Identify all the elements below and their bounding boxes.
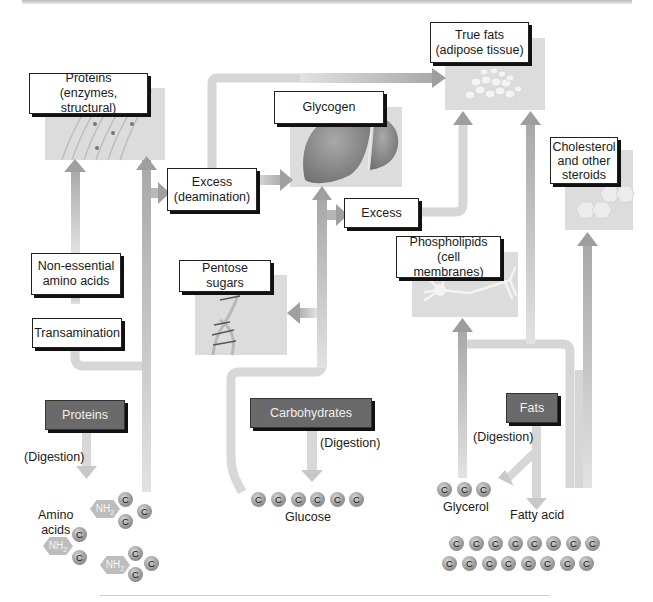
carbon-atom: C bbox=[137, 504, 152, 519]
non-essential-line1: Non-essential bbox=[38, 259, 114, 274]
non-essential-line2: amino acids bbox=[43, 274, 110, 289]
carbon-atom: C bbox=[521, 556, 536, 571]
carbon-atom: C bbox=[488, 536, 503, 551]
fats-digestion-label: (Digestion) bbox=[473, 430, 533, 445]
carbohydrates-source-box: Carbohydrates bbox=[250, 398, 372, 428]
amino-acids-line1: Amino bbox=[38, 508, 73, 523]
carbon-atom: C bbox=[585, 536, 600, 551]
fatty-acid-chain: C C C C C C C C C C C C C C C C bbox=[449, 536, 639, 576]
glucose-chain: C C C C C C bbox=[251, 492, 371, 508]
carbon-atom: C bbox=[349, 492, 364, 507]
carbon-atom: C bbox=[579, 556, 594, 571]
carbon-atom: C bbox=[501, 556, 516, 571]
cholesterol-line2: and other bbox=[558, 154, 611, 168]
fats-source-label: Fats bbox=[520, 401, 544, 415]
carbon-atom: C bbox=[508, 536, 523, 551]
glucose-label: Glucose bbox=[285, 510, 331, 525]
arrow-excess-to-true-fats bbox=[418, 111, 473, 212]
carbon-atom: C bbox=[72, 550, 87, 565]
true-fats-line1: True fats bbox=[455, 28, 504, 43]
carbon-atom: C bbox=[469, 536, 484, 551]
glycerol-label: Glycerol bbox=[443, 500, 489, 515]
carbon-atom: C bbox=[437, 482, 452, 497]
phospholipids-line1: Phospholipids bbox=[410, 235, 488, 250]
amino-acids-label: Amino acids bbox=[38, 508, 73, 538]
pipe-fatty-acid-to-true-fats bbox=[520, 111, 541, 344]
true-fats-box: True fats (adipose tissue) bbox=[430, 22, 529, 63]
carbon-atom: C bbox=[457, 482, 472, 497]
carbon-atom: C bbox=[72, 527, 87, 542]
amino-acids-line2: acids bbox=[38, 523, 73, 538]
carbon-atom: C bbox=[251, 492, 266, 507]
carbon-atom: C bbox=[291, 492, 306, 507]
carbon-atom: C bbox=[442, 556, 457, 571]
transamination-box: Transamination bbox=[32, 318, 122, 348]
carbon-atom: C bbox=[482, 556, 497, 571]
true-fats-line2: (adipose tissue) bbox=[435, 43, 523, 58]
carbon-atom: C bbox=[527, 536, 542, 551]
excess-deamination-line1: Excess bbox=[192, 175, 232, 190]
carbon-atom: C bbox=[144, 556, 159, 571]
carbon-atom: C bbox=[118, 492, 133, 507]
proteins-structural-box: Proteins (enzymes, structural) bbox=[29, 73, 148, 114]
carbon-atom: C bbox=[449, 536, 464, 551]
excess-deamination-line2: (deamination) bbox=[174, 190, 250, 205]
glycogen-box: Glycogen bbox=[274, 91, 384, 124]
phospholipids-line2: (cell membranes) bbox=[401, 250, 496, 280]
carbohydrates-source-label: Carbohydrates bbox=[270, 406, 352, 420]
carbon-atom: C bbox=[128, 567, 143, 582]
cholesterol-line1: Cholesterol bbox=[552, 140, 615, 154]
carbon-atom: C bbox=[310, 492, 325, 507]
carbon-atom: C bbox=[560, 556, 575, 571]
glycogen-label: Glycogen bbox=[303, 100, 356, 115]
proteins-structural-line1: Proteins bbox=[66, 71, 112, 86]
proteins-digestion-label: (Digestion) bbox=[24, 450, 84, 465]
excess-deamination-box: Excess (deamination) bbox=[167, 168, 257, 211]
proteins-structural-line2: (enzymes, structural) bbox=[34, 86, 143, 116]
carbohydrates-digestion-label: (Digestion) bbox=[320, 436, 380, 451]
bottom-divider bbox=[100, 595, 550, 596]
cholesterol-box: Cholesterol and other steroids bbox=[550, 137, 618, 184]
transamination-label: Transamination bbox=[34, 326, 120, 341]
proteins-source-label: Proteins bbox=[62, 408, 108, 422]
carbon-atom: C bbox=[128, 546, 143, 561]
carbon-atom: C bbox=[118, 514, 133, 529]
excess-box: Excess bbox=[344, 198, 419, 228]
glycerol-chain: C C C bbox=[437, 482, 497, 498]
arrow-nonessential-up bbox=[64, 159, 86, 253]
carbon-atom: C bbox=[271, 492, 286, 507]
carbon-atom: C bbox=[462, 556, 477, 571]
carbon-atom: C bbox=[476, 482, 491, 497]
fats-source-box: Fats bbox=[506, 393, 558, 423]
carbon-atom: C bbox=[330, 492, 345, 507]
phospholipids-box: Phospholipids (cell membranes) bbox=[396, 236, 501, 278]
pentose-sugars-box: Pentose sugars bbox=[179, 260, 271, 292]
pipe-fatty-acid-secondary bbox=[575, 370, 583, 488]
carbon-atom: C bbox=[540, 556, 555, 571]
arrow-deamination-to-glycogen bbox=[253, 169, 293, 191]
carbon-atom: C bbox=[546, 536, 561, 551]
fatty-acid-label: Fatty acid bbox=[510, 508, 564, 523]
pentose-sugars-label: Pentose sugars bbox=[184, 261, 266, 291]
carbon-atom: C bbox=[566, 536, 581, 551]
proteins-source-box: Proteins bbox=[45, 400, 125, 430]
non-essential-box: Non-essential amino acids bbox=[31, 253, 121, 295]
excess-label: Excess bbox=[361, 206, 401, 221]
cholesterol-line3: steroids bbox=[562, 168, 606, 182]
